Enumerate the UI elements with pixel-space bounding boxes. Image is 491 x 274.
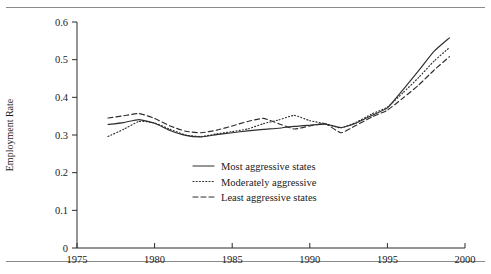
y-tick-label: 0.5 bbox=[55, 54, 68, 65]
line-chart: 00.10.20.30.40.50.6 19751980198519901995… bbox=[0, 0, 491, 274]
y-tick-label: 0.6 bbox=[55, 17, 68, 28]
y-tick-label: 0.1 bbox=[55, 205, 68, 216]
x-axis: 197519801985199019952000 bbox=[67, 243, 476, 265]
y-tick-label: 0 bbox=[63, 243, 68, 254]
series-line-0 bbox=[108, 38, 449, 137]
y-axis-title-text: Employment Rate bbox=[4, 98, 15, 171]
chart-legend: Most aggressive statesModerately aggress… bbox=[193, 161, 317, 203]
legend-label-1: Moderately aggressive bbox=[221, 177, 317, 188]
y-axis-title: Employment Rate bbox=[4, 98, 15, 171]
x-tick-label: 1995 bbox=[377, 254, 398, 265]
y-tick-label: 0.2 bbox=[55, 167, 68, 178]
y-tick-label: 0.4 bbox=[55, 92, 69, 103]
data-series-group bbox=[108, 38, 449, 137]
legend-label-2: Least aggressive states bbox=[221, 192, 317, 203]
x-tick-label: 1980 bbox=[144, 254, 165, 265]
x-tick-label: 1990 bbox=[299, 254, 320, 265]
x-tick-label: 2000 bbox=[455, 254, 476, 265]
legend-label-0: Most aggressive states bbox=[221, 161, 316, 172]
x-tick-label: 1975 bbox=[67, 254, 88, 265]
x-tick-label: 1985 bbox=[222, 254, 243, 265]
y-tick-label: 0.3 bbox=[55, 130, 68, 141]
figure-container: 00.10.20.30.40.50.6 19751980198519901995… bbox=[0, 0, 491, 274]
y-axis: 00.10.20.30.40.50.6 bbox=[55, 17, 77, 254]
